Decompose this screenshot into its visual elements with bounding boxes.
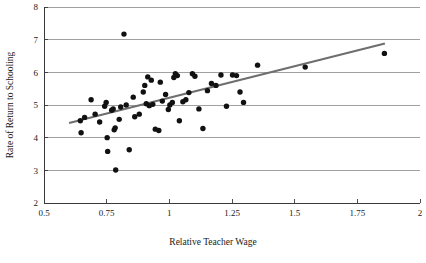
y-tick-label-5: 7 <box>34 35 39 45</box>
data-point-52 <box>218 72 223 77</box>
data-point-20 <box>131 94 136 99</box>
data-point-44 <box>186 90 191 95</box>
y-tick-label-6: 8 <box>34 2 39 12</box>
x-axis-title: Relative Teacher Wage <box>169 237 256 247</box>
data-points-group <box>78 31 387 172</box>
data-point-13 <box>112 125 117 130</box>
trend-line-group <box>69 44 385 123</box>
x-tick-label-5: 1.75 <box>349 208 365 218</box>
data-point-31 <box>156 128 161 133</box>
data-point-21 <box>132 114 137 119</box>
data-point-46 <box>192 74 197 79</box>
data-point-23 <box>141 89 146 94</box>
data-point-48 <box>200 126 205 131</box>
scatter-plot-figure: 0.50.7511.251.51.7522345678 Relative Tea… <box>0 0 426 263</box>
data-point-29 <box>150 102 155 107</box>
data-point-11 <box>110 106 115 111</box>
data-point-28 <box>149 77 154 82</box>
data-point-22 <box>137 111 142 116</box>
data-point-55 <box>234 73 239 78</box>
data-point-56 <box>237 89 242 94</box>
y-tick-label-4: 6 <box>34 68 39 78</box>
data-point-7 <box>103 100 108 105</box>
x-tick-label-4: 1.5 <box>289 208 301 218</box>
data-point-24 <box>142 83 147 88</box>
data-point-19 <box>127 147 132 152</box>
x-tick-label-3: 1.25 <box>224 208 240 218</box>
data-point-9 <box>105 149 110 154</box>
data-point-35 <box>166 107 171 112</box>
y-tick-label-3: 5 <box>34 100 39 110</box>
y-tick-label-0: 2 <box>34 198 39 208</box>
data-point-4 <box>92 111 97 116</box>
data-point-40 <box>175 73 180 78</box>
data-point-57 <box>241 100 246 105</box>
chart-canvas: 0.50.7511.251.51.7522345678 Relative Tea… <box>0 0 426 263</box>
data-point-5 <box>97 119 102 124</box>
data-point-17 <box>121 31 126 36</box>
data-point-37 <box>170 100 175 105</box>
data-point-53 <box>224 104 229 109</box>
tick-labels-group: 0.50.7511.251.51.7522345678 <box>34 2 423 218</box>
data-point-8 <box>104 135 109 140</box>
gridlines-group <box>44 7 420 170</box>
data-point-33 <box>160 98 165 103</box>
data-point-0 <box>78 118 83 123</box>
data-point-16 <box>118 104 123 109</box>
x-tick-label-2: 1 <box>167 208 172 218</box>
data-point-59 <box>302 64 307 69</box>
data-point-49 <box>205 88 210 93</box>
data-point-60 <box>382 51 387 56</box>
data-point-1 <box>78 130 83 135</box>
data-point-32 <box>158 79 163 84</box>
data-point-14 <box>113 167 118 172</box>
data-point-58 <box>255 62 260 67</box>
data-point-2 <box>82 115 87 120</box>
data-point-43 <box>183 97 188 102</box>
x-tick-label-0: 0.5 <box>38 208 50 218</box>
data-point-18 <box>124 102 129 107</box>
data-point-51 <box>213 83 218 88</box>
data-point-34 <box>163 92 168 97</box>
y-tick-label-1: 3 <box>34 166 39 176</box>
x-tick-label-1: 0.75 <box>99 208 115 218</box>
data-point-41 <box>177 118 182 123</box>
data-point-15 <box>117 117 122 122</box>
y-tick-label-2: 4 <box>34 133 39 143</box>
data-point-3 <box>88 97 93 102</box>
x-tick-label-6: 2 <box>418 208 423 218</box>
regression-trend-line <box>69 44 385 123</box>
y-axis-title: Rate of Return to Schooling <box>5 51 15 158</box>
data-point-47 <box>196 106 201 111</box>
